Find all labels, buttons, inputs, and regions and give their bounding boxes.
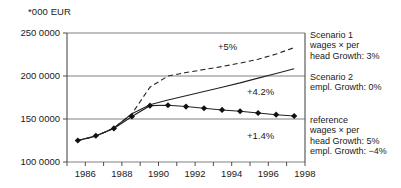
data-point-marker [255,110,261,116]
y-tick-label-100: 100 0000 [2,156,60,167]
data-point-marker [165,102,171,108]
annotation-plus-4-2: +4.2% [247,86,274,97]
data-point-marker [183,103,189,109]
y-tick-marks [63,33,67,162]
x-tick-label-1988: 1988 [102,168,142,179]
x-tick-label-1990: 1990 [139,168,179,179]
data-point-marker [237,108,243,114]
x-tick-label-1994: 1994 [212,168,252,179]
data-point-marker [291,113,297,119]
chart-root: *000 EUR [0,0,401,188]
chart-svg [0,0,401,188]
data-point-marker [273,112,279,118]
x-tick-label-1992: 1992 [175,168,215,179]
annotation-plus-1-4: +1.4% [247,130,274,141]
x-tick-label-1996: 1996 [248,168,288,179]
x-tick-label-1998: 1998 [285,168,325,179]
legend-reference-line-2: wages × per [310,125,387,135]
annotation-plus-5: +5% [218,41,237,52]
data-point-marker [75,137,81,143]
legend-reference-line-4: empl. Growth: −4% [310,146,387,156]
x-tick-label-1986: 1986 [65,168,105,179]
plot-area [0,0,401,188]
y-tick-label-150: 150 0000 [2,113,60,124]
legend-reference-line-1: reference [310,115,387,125]
legend-entry-reference: reference wages × per head Growth: 5% em… [310,115,387,157]
data-point-marker [219,107,225,113]
legend-scenario-1-line-1: Scenario 1 [310,30,380,40]
data-point-marker [93,133,99,139]
legend-scenario-2-line-1: Scenario 2 [310,72,382,82]
legend-entry-scenario-2: Scenario 2 empl. Growth: 0% [310,72,382,93]
data-point-marker [201,105,207,111]
x-tick-marks [67,162,305,166]
legend-entry-scenario-1: Scenario 1 wages × per head Growth: 3% [310,30,380,61]
legend-scenario-2-line-2: empl. Growth: 0% [310,82,382,92]
data-point-marker [147,103,153,109]
y-tick-label-250: 250 0000 [2,27,60,38]
legend-scenario-1-line-3: head Growth: 3% [310,51,380,61]
legend-reference-line-3: head Growth: 5% [310,136,387,146]
y-tick-label-200: 200 0000 [2,70,60,81]
legend-scenario-1-line-2: wages × per [310,40,380,50]
grid-group [67,33,305,162]
